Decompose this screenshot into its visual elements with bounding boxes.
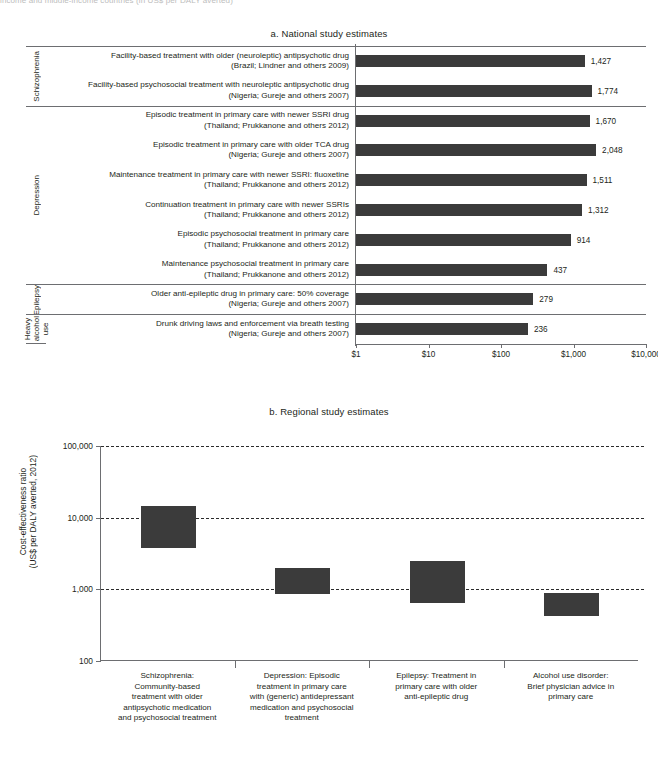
panel-a-x-tick bbox=[356, 344, 357, 348]
panel-a-row-label: Episodic treatment in primary care with … bbox=[46, 104, 356, 137]
panel-b-title: b. Regional study estimates bbox=[0, 406, 658, 417]
panel-b-category-separator bbox=[235, 661, 236, 668]
panel-a-title: a. National study estimates bbox=[0, 28, 658, 39]
panel-a-x-tick-label: $10 bbox=[422, 350, 436, 359]
panel-a-bar bbox=[356, 55, 585, 67]
panel-b-category-label: Alcohol use disorder: Brief physician ad… bbox=[508, 671, 635, 703]
cut-off-caption: income and middle-income countries (in U… bbox=[0, 0, 658, 5]
panel-a-x-tick-label: $10,000 bbox=[631, 350, 658, 359]
panel-b-y-tick-label: 1,000 bbox=[72, 584, 93, 594]
panel-a-bar-track: 1,427 bbox=[356, 44, 646, 77]
panel-a-bar-value-label: 437 bbox=[553, 265, 567, 274]
panel-a-bar bbox=[356, 293, 533, 305]
panel-a-bar-value-label: 1,511 bbox=[593, 176, 613, 185]
panel-b-range-box bbox=[544, 593, 599, 617]
panel-a-x-tick-label: $1 bbox=[351, 350, 360, 359]
panel-a-row-label: Facility-based treatment with older (neu… bbox=[46, 44, 356, 77]
panel-a-bar-value-label: 1,670 bbox=[596, 116, 617, 125]
panel-b-y-tick bbox=[96, 589, 101, 590]
panel-b-plot-area: 100,00010,0001,000100 bbox=[100, 446, 638, 661]
panel-a-bar-value-label: 2,048 bbox=[602, 146, 623, 155]
panel-a-bar-track: 914 bbox=[356, 223, 646, 256]
panel-a-bar bbox=[356, 85, 592, 97]
panel-b-y-tick-label: 100 bbox=[79, 656, 93, 666]
panel-a-bar-track: 1,670 bbox=[356, 104, 646, 137]
panel-a-bar-track: 2,048 bbox=[356, 134, 646, 167]
panel-a-bar-row: Episodic treatment in primary care with … bbox=[46, 134, 646, 167]
panel-a-bar-row: Episodic psychosocial treatment in prima… bbox=[46, 223, 646, 256]
panel-b-category-label: Epilepsy: Treatment in primary care with… bbox=[373, 671, 500, 703]
panel-a-group-1: Schizophrenia bbox=[26, 46, 46, 106]
panel-a-bar bbox=[356, 264, 547, 276]
panel-a-x-tick bbox=[501, 344, 502, 348]
panel-a-x-tick bbox=[646, 344, 647, 348]
panel-a-x-tick-label: $100 bbox=[492, 350, 510, 359]
panel-a-bar-row: Episodic treatment in primary care with … bbox=[46, 104, 646, 137]
panel-a-bar-row: Drunk driving laws and enforcement via b… bbox=[46, 313, 646, 346]
panel-a-bar-track: 1,774 bbox=[356, 74, 646, 107]
panel-a-bar-value-label: 1,774 bbox=[598, 86, 619, 95]
panel-a-group-label: Epilepsy bbox=[32, 285, 41, 315]
panel-a-bar-track: 236 bbox=[356, 313, 646, 346]
panel-a-bar bbox=[356, 234, 571, 246]
panel-a-row-label: Maintenance treatment in primary care wi… bbox=[46, 164, 356, 197]
panel-b-y-tick bbox=[96, 518, 101, 519]
panel-a-row-label: Drunk driving laws and enforcement via b… bbox=[46, 313, 356, 346]
panel-b-category-label: Schizophrenia: Community-based treatment… bbox=[104, 671, 231, 724]
panel-a-rows: Facility-based treatment with older (neu… bbox=[46, 46, 646, 344]
panel-a-bar-row: Maintenance treatment in primary care wi… bbox=[46, 164, 646, 197]
panel-b-y-tick-label: 100,000 bbox=[63, 441, 93, 451]
panel-a-bar-track: 1,511 bbox=[356, 164, 646, 197]
panel-a-bar-row: Facility-based treatment with older (neu… bbox=[46, 44, 646, 77]
panel-a-bar-track: 437 bbox=[356, 253, 646, 286]
panel-b-y-tick-label: 10,000 bbox=[67, 513, 93, 523]
panel-b-category-label: Depression: Episodic treatment in primar… bbox=[239, 671, 366, 724]
panel-a-bar-value-label: 279 bbox=[539, 295, 553, 304]
panel-b-gridline bbox=[101, 589, 644, 590]
panel-a-national-study-estimates: a. National study estimates Schizophreni… bbox=[0, 28, 658, 400]
panel-b-x-axis: Schizophrenia: Community-based treatment… bbox=[100, 661, 638, 761]
panel-a-x-tick-label: $1,000 bbox=[561, 350, 586, 359]
panel-a-x-tick bbox=[429, 344, 430, 348]
panel-a-group-label-column: SchizophreniaDepressionEpilepsyHeavy alc… bbox=[26, 46, 46, 344]
panel-b-range-box bbox=[410, 561, 465, 602]
panel-a-row-label: Continuation treatment in primary care w… bbox=[46, 193, 356, 226]
panel-b-category-separator bbox=[369, 661, 370, 668]
panel-a-bar-row: Older anti-epileptic drug in primary car… bbox=[46, 283, 646, 316]
panel-b-range-box bbox=[275, 568, 330, 595]
panel-b-range-box bbox=[141, 506, 196, 548]
panel-b-category-separator bbox=[504, 661, 505, 668]
panel-a-group-label: Depression bbox=[32, 175, 41, 215]
panel-a-row-label: Older anti-epileptic drug in primary car… bbox=[46, 283, 356, 316]
panel-a-bar-row: Continuation treatment in primary care w… bbox=[46, 193, 646, 226]
panel-a-bar-row: Maintenance psychosocial treatment in pr… bbox=[46, 253, 646, 286]
panel-a-row-label: Episodic psychosocial treatment in prima… bbox=[46, 223, 356, 256]
panel-a-bar-track: 279 bbox=[356, 283, 646, 316]
panel-a-row-label: Episodic treatment in primary care with … bbox=[46, 134, 356, 167]
panel-a-bar bbox=[356, 174, 587, 186]
panel-a-group-3: Epilepsy bbox=[26, 284, 46, 314]
panel-a-bar bbox=[356, 204, 582, 216]
panel-a-bar-value-label: 1,427 bbox=[591, 56, 612, 65]
panel-a-bar-value-label: 914 bbox=[577, 235, 591, 244]
panel-a-bar-row: Facility-based psychosocial treatment wi… bbox=[46, 74, 646, 107]
panel-a-group-4: Heavy alcohol use bbox=[26, 314, 46, 344]
panel-a-bar bbox=[356, 115, 590, 127]
panel-a-bar-value-label: 1,312 bbox=[588, 205, 609, 214]
figure-page: income and middle-income countries (in U… bbox=[0, 0, 658, 761]
panel-a-group-label: Schizophrenia bbox=[32, 51, 41, 102]
panel-a-row-label: Maintenance psychosocial treatment in pr… bbox=[46, 253, 356, 286]
panel-a-x-axis: $1$10$100$1,000$10,000 bbox=[356, 344, 646, 368]
panel-a-plot: SchizophreniaDepressionEpilepsyHeavy alc… bbox=[26, 46, 646, 366]
panel-b-y-tick bbox=[96, 446, 101, 447]
panel-a-bar-value-label: 236 bbox=[534, 325, 548, 334]
panel-a-bar bbox=[356, 144, 596, 156]
panel-b-gridline bbox=[101, 446, 644, 447]
panel-a-group-2: Depression bbox=[26, 106, 46, 285]
panel-a-bar bbox=[356, 323, 528, 335]
panel-a-bar-track: 1,312 bbox=[356, 193, 646, 226]
panel-a-row-label: Facility-based psychosocial treatment wi… bbox=[46, 74, 356, 107]
panel-a-x-tick bbox=[574, 344, 575, 348]
